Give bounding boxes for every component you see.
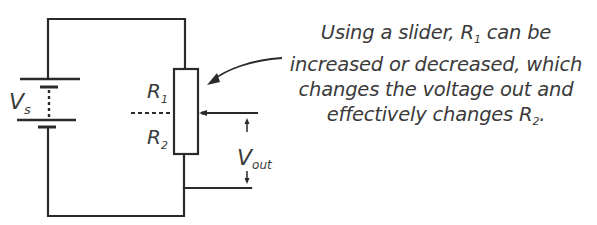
annotation-line-3: changes the voltage out and <box>278 77 594 102</box>
annotation-line-2: increased or decreased, which <box>278 52 594 77</box>
r1-label: R1 <box>147 79 168 106</box>
vout-arrow-down-icon <box>245 171 250 184</box>
annotation-text: Using a slider, R1 can be increased or d… <box>278 20 594 134</box>
r2-label: R2 <box>147 125 168 152</box>
annotation-line-1: Using a slider, R1 can be <box>278 20 594 52</box>
vout-arrow-up-icon <box>245 118 250 132</box>
slider-arrowhead-icon <box>199 110 207 116</box>
annotation-line-4: effectively changes R2. <box>278 102 594 134</box>
vout-label: Vout <box>237 145 273 172</box>
potentiometer-resistor <box>174 69 198 154</box>
supply-voltage-label: Vs <box>9 89 31 117</box>
annotation-arrow-icon <box>207 58 282 85</box>
wire-top <box>48 19 185 79</box>
